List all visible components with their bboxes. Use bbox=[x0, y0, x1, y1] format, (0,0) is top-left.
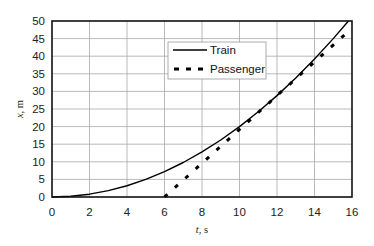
x-tick-label: 14 bbox=[308, 206, 321, 218]
y-tick-label: 40 bbox=[32, 50, 45, 62]
x-tick-label: 8 bbox=[199, 206, 205, 218]
legend: Train Passenger bbox=[168, 42, 266, 79]
y-tick-label: 35 bbox=[32, 68, 45, 80]
x-tick-label: 16 bbox=[346, 206, 359, 218]
y-tick-label: 45 bbox=[32, 33, 45, 45]
x-tick-label: 0 bbox=[49, 206, 55, 218]
y-axis-ticks: 05101520253035404550 bbox=[32, 15, 45, 203]
y-tick-label: 10 bbox=[32, 156, 45, 168]
y-tick-label: 30 bbox=[32, 85, 45, 97]
y-tick-label: 50 bbox=[32, 15, 45, 27]
x-tick-label: 2 bbox=[86, 206, 92, 218]
y-tick-label: 0 bbox=[39, 191, 45, 203]
x-axis-label: t, s bbox=[196, 224, 208, 235]
y-tick-label: 25 bbox=[32, 103, 45, 115]
x-tick-label: 10 bbox=[233, 206, 246, 218]
x-axis-ticks: 0246810121416 bbox=[49, 206, 359, 218]
legend-label-passenger: Passenger bbox=[210, 63, 265, 75]
y-axis-label: x, m bbox=[14, 100, 25, 119]
x-tick-label: 6 bbox=[161, 206, 167, 218]
y-tick-label: 15 bbox=[32, 138, 45, 150]
legend-label-train: Train bbox=[210, 44, 236, 56]
x-tick-label: 12 bbox=[271, 206, 284, 218]
y-tick-label: 20 bbox=[32, 121, 45, 133]
x-tick-label: 4 bbox=[124, 206, 131, 218]
y-tick-label: 5 bbox=[39, 173, 45, 185]
chart: 05101520253035404550 0246810121416 x, m … bbox=[0, 0, 374, 246]
